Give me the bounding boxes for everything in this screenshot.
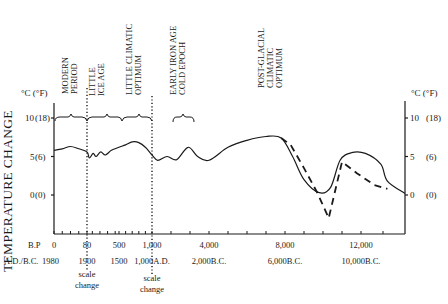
period-braces [55, 114, 194, 122]
ad-tick-label: 1,000A.D. [134, 256, 170, 266]
bp-tick-label: 8,000 [275, 240, 294, 250]
temperature-chart: TEMPERATURE CHANGE °C (°F) °C (°F) 10(18… [0, 0, 448, 304]
period-label-post-glacial-climatic-optimum: POST-GLACIALCLIMATICOPTIMUM [256, 28, 284, 88]
svg-text:ICE AGE: ICE AGE [96, 63, 106, 96]
period-label-little-ice-age: LITTLEICE AGE [87, 63, 106, 96]
period-label-early-iron-age-cold-epoch: EARLY IRON AGECOLD EPOCH [168, 26, 187, 95]
ad-tick-label: 2,000B.C. [192, 256, 227, 266]
ad-tick-label: 1980 [42, 256, 59, 266]
ad-tick-label: 10,000B.C. [342, 256, 381, 266]
ad-axis-label: A.D./B.C. [4, 256, 38, 266]
bp-tick-label: 12,000 [349, 240, 372, 250]
right-ytick-c-5: 5 [410, 152, 415, 162]
left-unit-label: °C (°F) [21, 88, 47, 98]
bp-tick-label: 4,000 [199, 240, 218, 250]
right-ytick-f-10: (18) [426, 113, 441, 123]
x-tick-labels: 0198080190050015001,0001,000A.D.4,0002,0… [42, 240, 380, 266]
left-ytick-c-10: 10 [25, 113, 35, 123]
right-ytick-f-0: (0) [426, 190, 437, 200]
svg-text:OPTIMUM: OPTIMUM [274, 47, 284, 88]
right-unit-label: °C (°F) [411, 88, 437, 98]
y-axis-title: TEMPERATURE CHANGE [0, 110, 15, 272]
scale-change-labels: scalechangescalechange [75, 269, 164, 294]
bp-tick-label: 0 [52, 240, 56, 250]
bp-axis-label: B.P [28, 240, 41, 250]
right-ytick-c-10: 10 [410, 113, 420, 123]
scale-change-label: scale [79, 269, 96, 279]
right-ytick-c-0: 0 [410, 190, 415, 200]
svg-text:OPTIMUM: OPTIMUM [133, 54, 143, 95]
scale-change-label: scale [144, 273, 161, 283]
left-ytick-f-5: (6) [35, 152, 46, 162]
temperature-solid-line [54, 136, 405, 194]
bp-tick-label: 500 [113, 240, 126, 250]
left-ytick-f-10: (18) [35, 113, 50, 123]
left-ytick-f-0: (0) [35, 190, 46, 200]
period-label-little-climatic-optimum: LITTLE CLIMATICOPTIMUM [124, 24, 143, 95]
svg-text:PERIOD: PERIOD [69, 63, 79, 94]
right-ytick-f-5: (6) [426, 152, 437, 162]
ad-tick-label: 6,000B.C. [268, 256, 303, 266]
scale-change-label: change [140, 284, 164, 294]
period-labels: MODERNPERIODLITTLEICE AGELITTLE CLIMATIC… [60, 24, 284, 96]
period-label-modern-period: MODERNPERIOD [60, 57, 79, 94]
bp-tick-label: 1,000 [142, 240, 161, 250]
axes [54, 101, 405, 234]
svg-text:COLD EPOCH: COLD EPOCH [177, 42, 187, 95]
ad-tick-label: 1900 [79, 256, 96, 266]
scale-change-label: change [75, 280, 99, 290]
ad-tick-label: 1500 [111, 256, 128, 266]
